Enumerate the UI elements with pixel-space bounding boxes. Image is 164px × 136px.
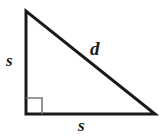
right-triangle-figure: s s d — [0, 0, 164, 136]
right-angle-marker-path — [26, 98, 42, 114]
label-vertical-leg: s — [6, 52, 13, 69]
triangle-outline — [26, 11, 155, 114]
label-hypotenuse: d — [90, 39, 100, 58]
triangle-path — [26, 11, 155, 114]
right-angle-marker-icon — [26, 98, 42, 114]
label-horizontal-leg: s — [78, 117, 85, 134]
